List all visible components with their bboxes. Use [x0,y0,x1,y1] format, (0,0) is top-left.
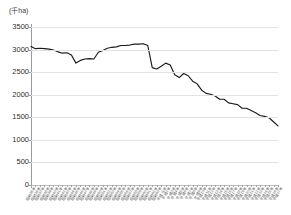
x-axis-tick-mark [80,185,81,187]
x-axis-tick-mark [76,185,77,187]
x-axis-tick-mark [98,185,99,187]
y-axis-tick-mark [28,140,31,141]
x-axis-tick-mark [193,185,194,187]
x-axis-tick-mark [31,185,32,187]
x-axis-tick-mark [188,185,189,187]
x-axis-tick-mark [44,185,45,187]
x-axis-tick-mark [148,185,149,187]
x-axis-tick-mark [116,185,117,187]
gridline [31,27,278,28]
x-axis-tick-mark [184,185,185,187]
gridline [31,162,278,163]
x-axis-tick-mark [233,185,234,187]
x-axis-tick-mark [62,185,63,187]
y-axis-tick-label: 2500 [0,68,29,76]
x-axis-tick-mark [220,185,221,187]
y-axis-tick-label: 3500 [0,23,29,31]
x-axis-tick-mark [85,185,86,187]
x-axis-tick-mark [274,185,275,187]
x-axis-tick-mark [238,185,239,187]
x-axis-tick-mark [161,185,162,187]
x-axis-tick-mark [40,185,41,187]
x-axis-tick-mark [107,185,108,187]
y-axis-tick-label: 3000 [0,46,29,54]
x-axis-tick-mark [256,185,257,187]
x-axis-tick-mark [242,185,243,187]
series-line-path [31,44,278,126]
chart-container: (千ha) 0500100015002000250030003500 昭和35年… [0,0,291,215]
y-axis-tick-mark [28,50,31,51]
gridline [31,50,278,51]
y-axis-tick-label: 1500 [0,113,29,121]
y-axis-tick-label: 1000 [0,136,29,144]
x-axis-tick-mark [215,185,216,187]
gridline [31,117,278,118]
x-axis-tick-mark [260,185,261,187]
x-axis-tick-mark [134,185,135,187]
x-axis-tick-mark [211,185,212,187]
x-axis-tick-mark [130,185,131,187]
plot-area [31,27,278,185]
x-axis-tick-mark [166,185,167,187]
x-axis-tick-mark [143,185,144,187]
y-axis-tick-label: 500 [0,158,29,166]
x-axis-tick-mark [53,185,54,187]
x-axis-tick-labels: 昭和35年昭和36年昭和37年昭和38年昭和39年昭和40年昭和41年昭和42年… [31,186,279,215]
x-axis-tick-mark [269,185,270,187]
x-axis-tick-mark [251,185,252,187]
x-axis-tick-mark [197,185,198,187]
gridline [31,95,278,96]
x-axis-tick-mark [206,185,207,187]
y-axis-tick-labels: 0500100015002000250030003500 [0,0,29,215]
y-axis-tick-mark [28,95,31,96]
y-axis-tick-label: 2000 [0,91,29,99]
x-axis-tick-mark [247,185,248,187]
x-axis-tick-mark [265,185,266,187]
x-axis-tick-mark [152,185,153,187]
y-axis-tick-mark [28,117,31,118]
x-axis-tick-mark [224,185,225,187]
x-axis-tick-mark [157,185,158,187]
x-axis-tick-mark [112,185,113,187]
x-axis-tick-mark [49,185,50,187]
x-axis-tick-mark [179,185,180,187]
x-axis-tick-mark [58,185,59,187]
x-axis-tick-mark [67,185,68,187]
gridline [31,72,278,73]
x-axis-tick-mark [278,185,279,187]
x-axis-tick-mark [170,185,171,187]
x-axis-tick-mark [89,185,90,187]
x-axis-tick-mark [125,185,126,187]
x-axis-tick-mark [202,185,203,187]
y-axis-tick-mark [28,72,31,73]
y-axis-tick-label: 0 [0,181,29,189]
x-axis-tick-mark [71,185,72,187]
x-axis-tick-mark [229,185,230,187]
gridline [31,140,278,141]
x-axis-tick-mark [94,185,95,187]
x-axis-tick-mark [139,185,140,187]
x-axis-tick-mark [121,185,122,187]
y-axis-tick-mark [28,27,31,28]
x-axis-tick-mark [35,185,36,187]
x-axis-tick-mark [175,185,176,187]
y-axis-tick-mark [28,162,31,163]
x-axis-tick-mark [103,185,104,187]
